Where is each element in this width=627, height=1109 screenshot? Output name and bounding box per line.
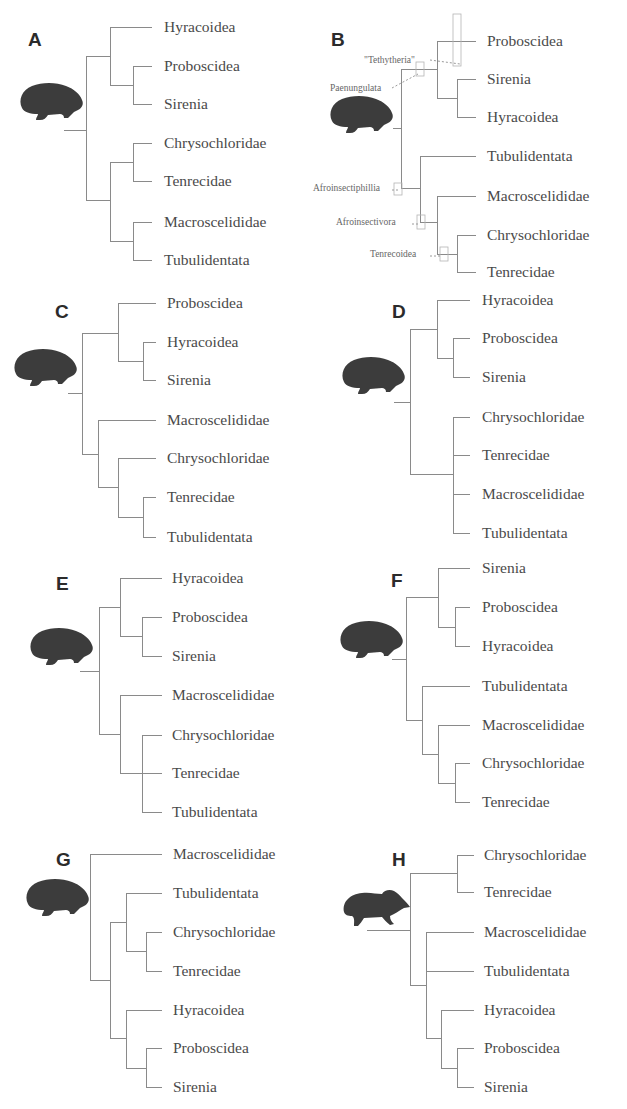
panel-letter: C [55,301,69,322]
tree-panel-e: EHyracoideaProboscideaSireniaMacroscelid… [30,569,274,820]
panel-letter: H [392,849,406,870]
taxon-label: Chrysochloridae [482,754,585,771]
elephant-shrew-silhouette-icon [344,890,410,926]
hyrax-silhouette-icon [340,621,402,658]
hyrax-silhouette-icon [14,349,76,386]
panel-letter: F [391,570,403,591]
taxon-label: Hyracoidea [487,108,559,125]
taxon-label: Chrysochloridae [482,408,585,425]
taxon-label: Tenrecidae [487,263,555,280]
panel-letter: D [392,301,406,322]
taxon-label: Sirenia [482,368,526,385]
taxon-label: Tubulidentata [482,677,568,694]
clade-label: Afroinsectivora [336,217,396,227]
taxon-label: Tenrecidae [482,793,550,810]
taxon-label: Tubulidentata [172,803,258,820]
taxon-label: Hyracoidea [173,1001,245,1018]
taxon-label: Proboscidea [173,1039,249,1056]
taxon-label: Sirenia [487,70,531,87]
panel-letter: B [331,29,345,50]
taxon-label: Macroscelididae [167,411,270,428]
taxon-label: Tubulidentata [167,528,253,545]
taxon-label: Tenrecidae [173,962,241,979]
taxon-label: Sirenia [164,95,208,112]
taxon-label: Tenrecidae [167,488,235,505]
tethytheria-leader [430,60,460,64]
taxon-label: Proboscidea [482,598,558,615]
panel-letter: A [28,29,42,50]
taxon-label: Proboscidea [487,32,563,49]
taxon-label: Chrysochloridae [173,923,276,940]
tree-panel-d: DHyracoideaProboscideaSireniaChrysochlor… [342,291,584,541]
tree-panel-f: FSireniaProboscideaHyracoideaTubulidenta… [340,559,584,810]
taxon-label: Tubulidentata [164,251,250,268]
taxon-label: Macroscelididae [164,213,267,230]
phylogeny-figure: AHyracoideaProboscideaSireniaChrysochlor… [0,0,627,1109]
taxon-label: Chrysochloridae [164,134,267,151]
taxon-label: Macroscelididae [173,845,276,862]
clade-label: "Tethytheria" [364,55,415,65]
taxon-label: Tenrecidae [482,446,550,463]
taxon-label: Macroscelididae [172,686,275,703]
taxon-label: Hyracoidea [482,637,554,654]
taxon-label: Hyracoidea [172,569,244,586]
paenungulata-leader [392,74,418,88]
hyrax-silhouette-icon [342,357,404,394]
taxon-label: Macroscelididae [487,187,590,204]
tree-panel-g: GMacroscelididaeTubulidentataChrysochlor… [26,845,275,1095]
taxon-label: Tenrecidae [164,172,232,189]
taxon-label: Hyracoidea [164,18,236,35]
taxon-label: Sirenia [172,647,216,664]
taxon-label: Macroscelididae [482,485,585,502]
tree-panel-c: CProboscideaHyracoideaSireniaMacroscelid… [14,294,269,545]
taxon-label: Hyracoidea [482,291,554,308]
hyrax-silhouette-icon [330,96,392,133]
taxon-label: Macroscelididae [484,923,587,940]
taxon-label: Tubulidentata [484,962,570,979]
taxon-label: Proboscidea [172,608,248,625]
hyrax-silhouette-icon [30,628,92,665]
tree-panel-b: BProboscideaSireniaHyracoideaTubulidenta… [313,14,590,280]
taxon-label: Proboscidea [167,294,243,311]
hyrax-silhouette-icon [26,879,88,916]
taxon-label: Chrysochloridae [172,726,275,743]
clade-label: Afroinsectiphillia [313,183,381,193]
taxon-label: Hyracoidea [167,333,239,350]
taxon-label: Sirenia [167,371,211,388]
taxon-label: Chrysochloridae [487,226,590,243]
taxon-label: Tubulidentata [482,524,568,541]
taxon-label: Sirenia [484,1078,528,1095]
clade-label: Paenungulata [330,83,382,93]
hyrax-silhouette-icon [20,83,82,120]
clade-label: Tenrecoidea [370,249,417,259]
tree-panel-a: AHyracoideaProboscideaSireniaChrysochlor… [20,18,266,268]
taxon-label: Tenrecidae [172,764,240,781]
taxon-label: Macroscelididae [482,716,585,733]
taxon-label: Proboscidea [164,57,240,74]
taxon-label: Hyracoidea [484,1001,556,1018]
taxon-label: Proboscidea [484,1039,560,1056]
taxon-label: Sirenia [173,1078,217,1095]
taxon-label: Tenrecidae [484,883,552,900]
panel-letter: G [56,849,71,870]
taxon-label: Chrysochloridae [484,846,587,863]
taxon-label: Tubulidentata [487,147,573,164]
taxon-label: Sirenia [482,559,526,576]
taxon-label: Tubulidentata [173,884,259,901]
support-box [453,14,461,66]
panel-letter: E [56,573,69,594]
taxon-label: Proboscidea [482,329,558,346]
tree-panel-h: HChrysochloridaeTenrecidaeMacroscelidida… [344,846,587,1095]
taxon-label: Chrysochloridae [167,449,270,466]
